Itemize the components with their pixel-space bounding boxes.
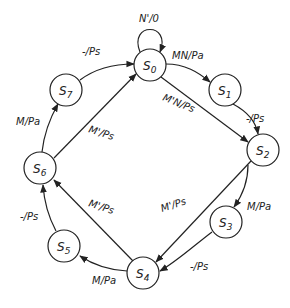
label-s3-s4: -/Ps xyxy=(190,261,208,272)
edge-s4-s5 xyxy=(80,256,127,271)
edge-s6-s7 xyxy=(42,104,58,152)
label-s0-s1: MN/Pa xyxy=(172,50,204,61)
label-s5-s6: -/Ps xyxy=(20,211,38,222)
label-s6-s7: M/Pa xyxy=(16,116,40,127)
edge-s5-s6 xyxy=(43,185,56,231)
edge-s0-s1 xyxy=(166,64,210,82)
label-s6-s0: M'/Ps xyxy=(87,123,115,141)
label-s4-s6: M'/Ps xyxy=(87,197,115,215)
label-s7-s0: -/Ps xyxy=(82,46,100,57)
state-diagram: S0 S1 S2 S3 S4 S5 S6 S7 N'/0 MN/Pa -/Ps … xyxy=(0,0,290,308)
label-s0-self-loop: N'/0 xyxy=(139,13,159,24)
label-s1-s2: -/Ps xyxy=(246,113,264,124)
edge-s7-s0 xyxy=(80,64,134,80)
label-s2-s4: M'/Ps xyxy=(159,195,187,213)
label-s2-s3: M/Pa xyxy=(247,201,271,212)
label-s4-s5: M/Pa xyxy=(92,275,116,286)
label-s0-s2: M'N/Ps xyxy=(161,92,196,115)
